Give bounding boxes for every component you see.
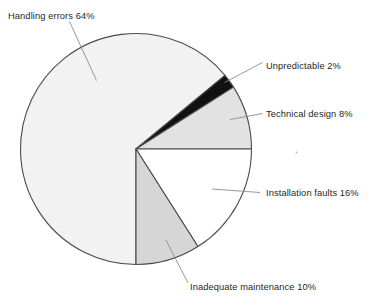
pie-chart-figure: Handling errors 64% Unpredictable 2% Tec… <box>0 0 392 306</box>
label-installation-faults: Installation faults 16% <box>266 188 359 198</box>
label-technical-design: Technical design 8% <box>266 109 353 119</box>
label-handling-errors: Handling errors 64% <box>8 11 95 21</box>
scan-speck <box>296 152 298 154</box>
leader-line-unpredictable <box>225 63 263 83</box>
label-inadequate-maintenance: Inadequate maintenance 10% <box>190 282 316 292</box>
pie-slices <box>20 33 251 264</box>
label-unpredictable: Unpredictable 2% <box>266 61 341 71</box>
pie-chart-svg: Handling errors 64% Unpredictable 2% Tec… <box>0 0 392 306</box>
